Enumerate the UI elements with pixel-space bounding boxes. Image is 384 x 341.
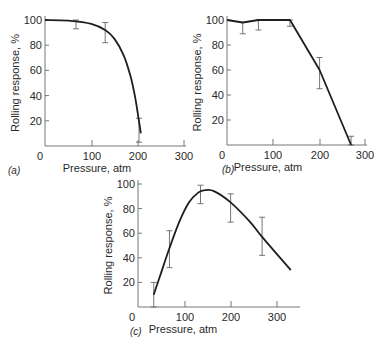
y-tick-label: 80 [30,39,42,51]
response-curve [154,190,291,295]
y-tick-label: 60 [212,64,224,76]
x-axis-label: Pressure, atm [234,161,302,173]
axes: 204060801000100200300 [24,14,194,162]
y-tick-label: 80 [123,203,135,215]
x-tick-label: 300 [175,150,193,162]
panel-c-chart: 204060801000100200300Pressure, atmRollin… [102,178,300,337]
y-tick-label: 20 [212,114,224,126]
figure: 204060801000100200300Pressure, atmRollin… [0,0,384,341]
y-tick-label: 40 [212,89,224,101]
error-bars [151,185,265,307]
x-tick-label: 200 [129,150,147,162]
x-tick-label: 0 [219,149,225,161]
axes: 204060801000100200300 [117,178,300,323]
y-axis-label: Rolling response, % [102,196,114,294]
y-tick-label: 60 [123,227,135,239]
y-tick-label: 20 [123,276,135,288]
response-curve [227,20,351,145]
y-tick-label: 40 [123,252,135,264]
x-tick-label: 100 [83,150,101,162]
panel-b-chart: 204060801000100200300Pressure, atmRollin… [191,14,374,175]
x-axis-label: Pressure, atm [63,162,131,174]
y-tick-label: 100 [24,14,42,26]
x-tick-label: 200 [222,311,240,323]
x-tick-label: 300 [268,311,286,323]
y-tick-label: 100 [117,178,135,190]
panel-label: (b) [222,164,234,175]
error-bars [240,20,354,145]
panel-label: (a) [8,165,20,176]
panel-a-chart: 204060801000100200300Pressure, atmRollin… [8,14,193,176]
response-curve [45,20,141,133]
y-tick-label: 20 [30,115,42,127]
y-axis-label: Rolling response, % [9,34,21,132]
y-tick-label: 100 [206,14,224,26]
panel-label: (c) [130,326,142,337]
y-tick-label: 40 [30,90,42,102]
x-tick-label: 100 [176,311,194,323]
x-tick-label: 0 [129,311,135,323]
x-tick-label: 300 [356,149,374,161]
x-tick-label: 200 [311,149,329,161]
y-tick-label: 80 [212,39,224,51]
y-axis-label: Rolling response, % [191,33,203,131]
x-tick-label: 0 [37,150,43,162]
x-axis-label: Pressure, atm [149,323,217,335]
x-tick-label: 100 [264,149,282,161]
y-tick-label: 60 [30,64,42,76]
